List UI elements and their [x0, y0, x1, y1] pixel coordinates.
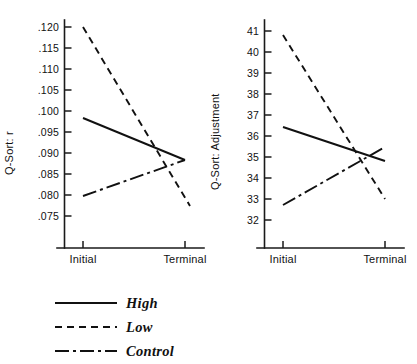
left-x-tick-label-initial: Initial: [69, 253, 96, 265]
right-series-low: [283, 35, 385, 199]
left-series-control: [83, 160, 185, 196]
legend-label-high: High: [125, 295, 158, 311]
left-y-tick-label: .085: [38, 168, 59, 180]
right-y-tick-label: 35: [247, 151, 259, 163]
left-y-tick-label: .095: [38, 126, 59, 138]
right-y-tick-label: 36: [247, 130, 259, 142]
left-y-tick-label: .100: [38, 105, 59, 117]
left-y-tick-label: .110: [39, 63, 59, 75]
left-series-low: [83, 27, 190, 206]
left-y-tick-label: .105: [38, 84, 59, 96]
left-y-tick-label: .120: [38, 21, 59, 33]
right-y-tick-label: 40: [247, 46, 259, 58]
panel-left: Q-Sort: r .120 .115 .110 .105 .100 .095: [3, 20, 207, 265]
legend: High Low Control: [55, 295, 174, 359]
legend-label-low: Low: [125, 319, 153, 335]
left-y-tick-label: .090: [38, 147, 59, 159]
left-y-axis-title: Q-Sort: r: [3, 131, 15, 175]
left-y-ticks: .120 .115 .110 .105 .100 .095 .090 .085 …: [38, 21, 72, 222]
left-y-tick-label: .080: [38, 189, 59, 201]
left-x-tick-label-terminal: Terminal: [163, 253, 206, 265]
right-y-ticks: 41 40 39 38 37 36 35 34 33 32: [247, 25, 272, 226]
right-y-tick-label: 39: [247, 67, 259, 79]
left-y-tick-label: .075: [38, 210, 59, 222]
chart-svg: Q-Sort: r .120 .115 .110 .105 .100 .095: [0, 0, 417, 364]
right-y-axis-title: Q-Sort: Adjustment: [209, 93, 221, 190]
right-y-tick-label: 41: [247, 25, 259, 37]
right-y-tick-label: 38: [247, 88, 259, 100]
right-y-tick-label: 34: [247, 172, 259, 184]
right-y-tick-label: 32: [247, 214, 259, 226]
right-y-tick-label: 37: [247, 109, 259, 121]
figure-container: Q-Sort: r .120 .115 .110 .105 .100 .095: [0, 0, 417, 364]
panel-right: Q-Sort: Adjustment 41 40 39 38 37 36 35: [209, 20, 407, 265]
right-x-tick-label-terminal: Terminal: [363, 253, 406, 265]
right-x-tick-label-initial: Initial: [269, 253, 296, 265]
left-y-tick-label: .115: [39, 42, 59, 54]
right-y-tick-label: 33: [247, 193, 259, 205]
right-series-high: [283, 127, 385, 161]
legend-label-control: Control: [126, 343, 174, 359]
right-x-ticks: Initial Terminal: [269, 241, 406, 265]
left-series-high: [83, 118, 185, 160]
left-x-ticks: Initial Terminal: [69, 241, 206, 265]
